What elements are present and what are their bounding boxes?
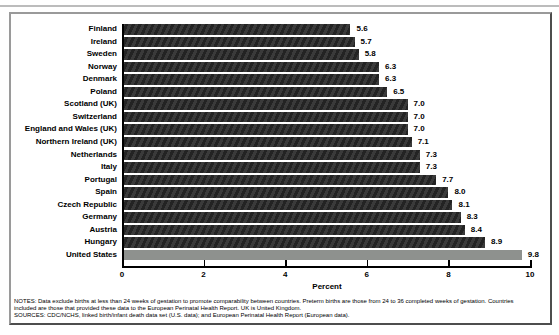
bar (122, 87, 387, 98)
x-axis-line (122, 266, 532, 268)
x-axis-title: Percent (292, 282, 362, 291)
bar-row: Czech Republic 8.1 (11, 200, 550, 211)
bar-row: Denmark 6.3 (11, 74, 550, 85)
bar (122, 187, 448, 198)
page-edge-line (0, 5, 559, 7)
bar (122, 237, 485, 248)
value-label: 7.0 (414, 124, 425, 135)
plot-area: Finland 5.6 Ireland 5.7 Sweden 5.8 Norwa… (11, 14, 550, 323)
value-label: 8.3 (467, 212, 478, 223)
bar (122, 250, 522, 261)
country-label: Poland (11, 87, 117, 98)
value-label: 8.1 (458, 200, 469, 211)
bar-row: Austria 8.4 (11, 225, 550, 236)
bar (122, 200, 452, 211)
country-label: Hungary (11, 237, 117, 248)
x-tick (530, 260, 532, 266)
value-label: 6.3 (385, 62, 396, 73)
value-label: 7.1 (418, 137, 429, 148)
bar (122, 74, 379, 85)
value-label: 8.4 (471, 225, 482, 236)
bar-row: Spain 8.0 (11, 187, 550, 198)
x-tick (448, 260, 450, 266)
bar (122, 162, 420, 173)
bar (122, 24, 350, 35)
value-label: 8.9 (491, 237, 502, 248)
value-label: 5.8 (365, 49, 376, 60)
bar-row: Scotland (UK) 7.0 (11, 99, 550, 110)
country-label: Scotland (UK) (11, 99, 117, 110)
country-label: Spain (11, 187, 117, 198)
x-tick (285, 260, 287, 266)
x-tick-label: 0 (112, 270, 132, 279)
country-label: Finland (11, 24, 117, 35)
country-label: England and Wales (UK) (11, 124, 117, 135)
x-tick (367, 260, 369, 266)
x-tick-label: 6 (357, 270, 377, 279)
country-label: Norway (11, 62, 117, 73)
bar (122, 37, 355, 48)
value-label: 7.3 (426, 150, 437, 161)
bar-row: Germany 8.3 (11, 212, 550, 223)
chart-figure: Finland 5.6 Ireland 5.7 Sweden 5.8 Norwa… (9, 12, 552, 325)
x-tick-label: 10 (520, 270, 540, 279)
bar-row: Ireland 5.7 (11, 37, 550, 48)
notes-line-3: SOURCES: CDC/NCHS, linked birth/infant d… (14, 312, 547, 319)
country-label: Italy (11, 162, 117, 173)
value-label: 7.0 (414, 99, 425, 110)
bar-row: Poland 6.5 (11, 87, 550, 98)
value-label: 6.5 (393, 87, 404, 98)
country-label: Sweden (11, 49, 117, 60)
value-label: 6.3 (385, 74, 396, 85)
bar (122, 62, 379, 73)
country-label: Ireland (11, 37, 117, 48)
bar-row: Switzerland 7.0 (11, 112, 550, 123)
bar-row: Portugal 7.7 (11, 175, 550, 186)
country-label: Portugal (11, 175, 117, 186)
bar (122, 175, 436, 186)
bar-row: Northern Ireland (UK) 7.1 (11, 137, 550, 148)
x-tick-label: 8 (438, 270, 458, 279)
notes-line-2: included are those that provided these d… (14, 305, 547, 312)
x-tick (204, 260, 206, 266)
bar-row: Hungary 8.9 (11, 237, 550, 248)
bar (122, 112, 408, 123)
value-label: 8.0 (454, 187, 465, 198)
country-label: Czech Republic (11, 200, 117, 211)
value-label: 9.8 (528, 250, 539, 261)
x-tick-label: 2 (194, 270, 214, 279)
bar (122, 150, 420, 161)
country-label: Austria (11, 225, 117, 236)
bar (122, 225, 465, 236)
x-tick-label: 4 (275, 270, 295, 279)
bar (122, 137, 412, 148)
country-label: Germany (11, 212, 117, 223)
value-label: 7.3 (426, 162, 437, 173)
bar (122, 99, 408, 110)
notes-line-1: NOTES: Data exclude births at less than … (14, 298, 547, 305)
value-label: 7.0 (414, 112, 425, 123)
country-label: United States (11, 250, 117, 261)
bar-row: Netherlands 7.3 (11, 150, 550, 161)
value-label: 7.7 (442, 175, 453, 186)
bar-row: England and Wales (UK) 7.0 (11, 124, 550, 135)
value-label: 5.7 (361, 37, 372, 48)
bar-row: United States 9.8 (11, 250, 550, 261)
y-axis-line (122, 24, 124, 266)
country-label: Netherlands (11, 150, 117, 161)
value-label: 5.6 (356, 24, 367, 35)
country-label: Switzerland (11, 112, 117, 123)
notes-text: NOTES: Data exclude births at less than … (14, 298, 547, 318)
country-label: Northern Ireland (UK) (11, 137, 117, 148)
bar-row: Norway 6.3 (11, 62, 550, 73)
country-label: Denmark (11, 74, 117, 85)
bar (122, 124, 408, 135)
bar (122, 49, 359, 60)
bar-row: Italy 7.3 (11, 162, 550, 173)
bar (122, 212, 461, 223)
bar-row: Finland 5.6 (11, 24, 550, 35)
bar-row: Sweden 5.8 (11, 49, 550, 60)
